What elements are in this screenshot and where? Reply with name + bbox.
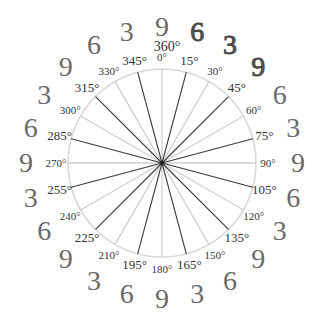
outer-digit-90: 9 — [291, 147, 305, 178]
outer-digit-240: 6 — [37, 215, 51, 246]
spoke-345 — [138, 72, 162, 163]
outer-digit-315: 9 — [59, 51, 73, 82]
outer-digit-45: 9 — [251, 51, 265, 82]
degree-label-165: 165° — [177, 257, 202, 272]
degree-label-240: 240° — [60, 210, 81, 222]
outer-digit-270: 9 — [19, 147, 33, 178]
outer-digit-150: 6 — [223, 265, 237, 296]
outer-digit-135: 9 — [251, 243, 265, 274]
degree-label-345: 345° — [122, 53, 147, 68]
degree-label-195: 195° — [122, 257, 147, 272]
degree-label-225: 225° — [75, 230, 100, 245]
outer-digit-180: 9 — [155, 283, 169, 314]
degree-label-45: 45° — [228, 80, 246, 95]
outer-digit-210: 3 — [87, 265, 101, 296]
spoke-75 — [162, 139, 253, 163]
degree-label-180: 180° — [152, 263, 173, 275]
outer-digit-330: 6 — [87, 29, 101, 60]
spoke-15 — [162, 72, 186, 163]
degree-label-75: 75° — [255, 128, 273, 143]
degree-label-315: 315° — [75, 80, 100, 95]
degree-label-210: 210° — [99, 249, 120, 261]
degree-label-285: 285° — [47, 128, 72, 143]
degree-label-120: 120° — [243, 210, 264, 222]
outer-digit-225: 9 — [59, 243, 73, 274]
outer-digit-300: 3 — [37, 79, 51, 110]
outer-digit-60: 6 — [273, 79, 287, 110]
degree-wheel-diagram: 0°15°30°45°60°75°90°105°120°135°150°165°… — [0, 0, 319, 327]
degree-label-255: 255° — [47, 182, 72, 197]
outer-digit-15: 6 — [190, 16, 204, 47]
degree-label-15: 15° — [180, 53, 198, 68]
spoke-255 — [71, 163, 162, 187]
degree-label-90: 90° — [260, 157, 275, 169]
center-point — [160, 161, 164, 165]
degree-label-135: 135° — [225, 230, 250, 245]
degree-label-105: 105° — [252, 182, 277, 197]
outer-digit-0: 9 — [155, 11, 169, 42]
outer-digit-120: 3 — [273, 215, 287, 246]
degree-label-330: 330° — [99, 65, 120, 77]
outer-digit-285: 6 — [24, 112, 38, 143]
spoke-165 — [162, 163, 186, 254]
degree-label-300: 300° — [60, 104, 81, 116]
spoke-195 — [138, 163, 162, 254]
spoke-105 — [162, 163, 253, 187]
degree-label-270: 270° — [46, 157, 67, 169]
degree-label-30: 30° — [207, 65, 222, 77]
degree-label-150: 150° — [205, 249, 226, 261]
outer-digit-165: 3 — [190, 278, 204, 309]
outer-digit-345: 3 — [120, 16, 134, 47]
degree-label-60: 60° — [246, 104, 261, 116]
outer-digit-195: 6 — [120, 278, 134, 309]
outer-digit-105: 6 — [286, 182, 300, 213]
outer-digit-75: 3 — [286, 112, 300, 143]
outer-digit-255: 3 — [24, 182, 38, 213]
outer-digit-30: 3 — [223, 29, 237, 60]
spoke-285 — [71, 139, 162, 163]
